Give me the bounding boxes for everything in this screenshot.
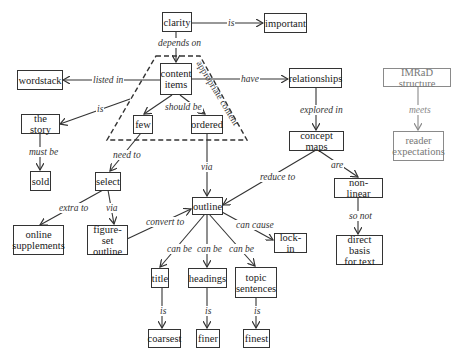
node-topic-sentences: topic sentences (235, 267, 277, 298)
link-label-can-be-topic: can be (228, 244, 255, 254)
node-finer: finer (196, 329, 220, 348)
link-label-listed-in: listed in (92, 75, 124, 85)
link-label-reduce-to: reduce to (259, 172, 296, 182)
link-label-have: have (240, 74, 260, 84)
node-coarsest: coarsest (148, 329, 181, 348)
link-label-is-coarsest: is (159, 306, 167, 316)
node-the-story: the story (21, 114, 60, 134)
node-reader-expectations: reader expectations (393, 131, 444, 161)
link-label-can-be-title: can be (166, 244, 193, 254)
node-imrad-structure: IMRaD structure (383, 68, 451, 87)
link-label-is-finest: is (253, 306, 261, 316)
link-label-so-not: so not (348, 211, 373, 221)
node-direct-basis-for-text: direct basis for text (336, 235, 383, 265)
node-select: select (95, 172, 121, 191)
node-sold: sold (30, 171, 51, 191)
link-label-explored-in: explored in (299, 105, 344, 115)
node-important: important (264, 13, 307, 33)
link-label-need-to: need to (112, 150, 142, 160)
node-relationships: relationships (289, 68, 342, 88)
link-label-is-story: is (96, 104, 104, 114)
link-label-can-cause: can cause (235, 220, 275, 230)
link-label-via-select: via (105, 203, 119, 213)
link-label-is-finer: is (204, 306, 212, 316)
node-finest: finest (243, 329, 270, 348)
node-concept-maps: concept maps (289, 131, 344, 151)
link-label-via-ordered: via (200, 162, 214, 172)
node-clarity: clarity (162, 12, 192, 32)
link-label-should-be: should be (164, 102, 203, 112)
node-few: few (133, 115, 153, 134)
link-label-must-be: must be (28, 147, 59, 157)
node-wordstack: wordstack (17, 70, 63, 90)
link-label-extra-to: extra to (58, 203, 89, 213)
node-non-linear: non-linear (334, 178, 383, 198)
link-label-is-important: is (227, 18, 235, 28)
node-title: title (151, 268, 169, 288)
link-label-meets: meets (408, 105, 432, 115)
node-headings: headings (188, 268, 227, 288)
link-label-can-be-headings: can be (196, 244, 223, 254)
link-label-are: are (330, 160, 344, 170)
node-online-supplements: online supplements (13, 225, 64, 255)
node-content-items: content items (160, 63, 192, 95)
link-label-depends-on: depends on (157, 38, 202, 48)
node-outline: outline (192, 197, 223, 215)
node-ordered: ordered (191, 115, 223, 134)
node-figure-set-outline: figure-set outline (87, 225, 128, 255)
connector-lines (0, 0, 465, 361)
node-lock-in: lock-in (274, 233, 307, 253)
link-label-convert-to: convert to (145, 217, 185, 227)
